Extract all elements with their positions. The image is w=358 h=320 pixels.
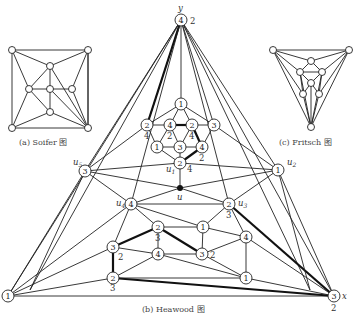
label-y: y (177, 3, 183, 13)
label-u4: u4 (116, 198, 125, 209)
svg-text:2: 2 (110, 274, 115, 283)
svg-text:2: 2 (144, 121, 149, 130)
label-u: u (177, 192, 182, 202)
caption-fritsch: (c) Fritsch 图 (279, 136, 332, 147)
node-c3: 3 (196, 248, 208, 260)
svg-text:4: 4 (167, 121, 172, 130)
svg-text:2: 2 (189, 121, 194, 130)
caption-soifer: (a) Soifer 图 (19, 136, 67, 147)
alt-d1: 3 (110, 283, 115, 293)
svg-text:4: 4 (243, 233, 248, 242)
alt-b1: 2 (118, 252, 123, 262)
alt-right: 2 (331, 303, 336, 313)
alt-c3: 2 (210, 250, 215, 260)
svg-text:2: 2 (226, 200, 231, 209)
svg-text:4: 4 (199, 143, 204, 152)
node-d2: 1 (240, 272, 252, 284)
node-u2: 1 (272, 164, 284, 176)
node-right: 3 (328, 290, 340, 302)
node-r1: 2 (141, 119, 153, 131)
label-u5: u5 (73, 157, 82, 168)
svg-text:4: 4 (178, 16, 183, 25)
node-m2: 3 (174, 141, 186, 153)
svg-text:1: 1 (243, 274, 248, 283)
label-u2: u2 (287, 157, 296, 168)
node-b2: 4 (152, 248, 164, 260)
svg-text:2: 2 (155, 223, 160, 232)
alt-r1: 4 (144, 131, 149, 141)
node-r2: 4 (164, 119, 176, 131)
node-u4: 4 (125, 198, 137, 210)
node-top: 4 (175, 14, 187, 26)
svg-text:3: 3 (331, 292, 336, 301)
label-u1: u1 (166, 164, 175, 175)
alt-r2: 2 (167, 131, 172, 141)
alt-r3: 4 (189, 131, 194, 141)
node-left: 1 (2, 290, 14, 302)
node-m3: 4 (196, 141, 208, 153)
svg-text:2: 2 (177, 159, 182, 168)
alt-u3: 3 (226, 210, 231, 220)
node-m1: 1 (151, 141, 163, 153)
node-u (177, 185, 183, 191)
label-x: x (342, 291, 347, 301)
alt-m3: 2 (199, 153, 204, 163)
svg-text:3: 3 (211, 121, 216, 130)
label-u3: u3 (238, 198, 247, 209)
svg-text:3: 3 (82, 167, 87, 176)
alt-a1: 3 (155, 233, 160, 243)
node-c1: 1 (175, 98, 187, 110)
svg-text:1: 1 (200, 223, 205, 232)
svg-text:1: 1 (154, 143, 159, 152)
node-u3: 2 (223, 198, 235, 210)
node-a1: 2 (152, 221, 164, 233)
caption-heawood: (b) Heawood 图 (142, 303, 205, 314)
node-c4: 4 (240, 231, 252, 243)
svg-text:1: 1 (178, 100, 183, 109)
svg-text:3: 3 (110, 243, 115, 252)
svg-text:4: 4 (128, 200, 133, 209)
svg-text:4: 4 (155, 250, 160, 259)
svg-text:1: 1 (5, 292, 10, 301)
alt-u1: 4 (187, 164, 192, 174)
svg-text:1: 1 (275, 166, 280, 175)
node-r4: 3 (208, 119, 220, 131)
node-a2: 1 (197, 221, 209, 233)
alt-top: 2 (190, 16, 195, 26)
node-u1: 2 (174, 157, 186, 169)
node-r3: 2 (186, 119, 198, 131)
svg-text:3: 3 (199, 250, 204, 259)
heawood-nodes: 4 1 3 1 2 4 2 3 1 3 4 2 3 1 4 2 2 1 3 4 … (0, 0, 358, 320)
svg-text:3: 3 (177, 143, 182, 152)
